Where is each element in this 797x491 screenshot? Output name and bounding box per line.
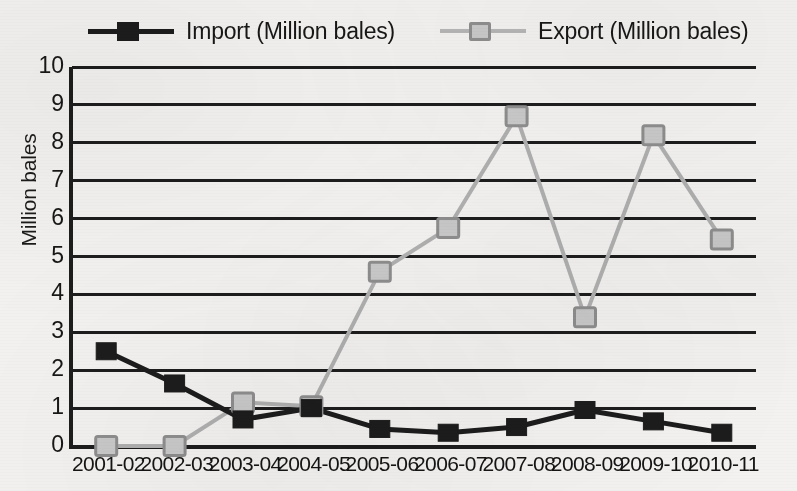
data-point-import-2001-02 xyxy=(96,343,116,360)
x-tick-label-2010-11: 2010-11 xyxy=(688,452,756,476)
x-tick-label-2009-10: 2009-10 xyxy=(619,452,687,476)
data-point-export-2010-11 xyxy=(711,230,732,249)
data-point-import-2004-05 xyxy=(301,400,321,417)
x-axis-ticks: 2001-022002-032003-042004-052005-062006-… xyxy=(72,452,756,484)
data-point-export-2003-04 xyxy=(233,393,254,412)
y-tick-label-7: 7 xyxy=(30,168,64,191)
legend-item-import[interactable]: Import (Million bales) xyxy=(88,14,395,48)
x-tick-label-2008-09: 2008-09 xyxy=(551,452,619,476)
y-axis-ticks: 012345678910 xyxy=(30,0,64,491)
x-tick-label-2006-07: 2006-07 xyxy=(414,452,482,476)
legend-swatch-export xyxy=(440,14,526,48)
data-point-import-2005-06 xyxy=(370,420,390,437)
y-tick-label-10: 10 xyxy=(30,54,64,77)
data-point-export-2007-08 xyxy=(506,107,527,126)
chart-legend: Import (Million bales) Export (Million b… xyxy=(0,14,797,54)
y-tick-label-6: 6 xyxy=(30,206,64,229)
y-tick-label-5: 5 xyxy=(30,244,64,267)
x-tick-label-2005-06: 2005-06 xyxy=(346,452,414,476)
data-point-export-2009-10 xyxy=(643,126,664,145)
x-tick-label-2004-05: 2004-05 xyxy=(277,452,345,476)
data-point-export-2005-06 xyxy=(369,262,390,281)
plot-area xyxy=(72,67,756,446)
x-tick-label-2002-03: 2002-03 xyxy=(140,452,208,476)
data-point-import-2003-04 xyxy=(233,411,253,428)
data-point-import-2009-10 xyxy=(643,413,663,430)
data-point-export-2008-09 xyxy=(575,308,596,327)
legend-label-export: Export (Million bales) xyxy=(538,18,748,45)
y-tick-label-2: 2 xyxy=(30,357,64,380)
y-tick-label-9: 9 xyxy=(30,92,64,115)
legend-item-export[interactable]: Export (Million bales) xyxy=(440,14,748,48)
data-point-import-2006-07 xyxy=(438,424,458,441)
x-tick-label-2001-02: 2001-02 xyxy=(72,452,140,476)
x-tick-label-2007-08: 2007-08 xyxy=(482,452,550,476)
legend-label-import: Import (Million bales) xyxy=(186,18,395,45)
data-point-import-2010-11 xyxy=(712,424,732,441)
series-layer xyxy=(72,67,756,446)
data-point-import-2002-03 xyxy=(165,375,185,392)
y-tick-label-0: 0 xyxy=(30,433,64,456)
legend-marker-export xyxy=(469,22,491,41)
legend-swatch-import xyxy=(88,14,174,48)
data-point-export-2006-07 xyxy=(438,219,459,238)
data-point-import-2008-09 xyxy=(575,401,595,418)
line-chart: Import (Million bales) Export (Million b… xyxy=(0,0,797,491)
y-tick-label-1: 1 xyxy=(30,395,64,418)
x-tick-label-2003-04: 2003-04 xyxy=(209,452,277,476)
legend-marker-import xyxy=(117,22,139,41)
y-tick-label-3: 3 xyxy=(30,319,64,342)
series-line-import xyxy=(106,351,722,432)
data-point-import-2007-08 xyxy=(507,419,527,436)
y-tick-label-4: 4 xyxy=(30,281,64,304)
y-tick-label-8: 8 xyxy=(30,130,64,153)
